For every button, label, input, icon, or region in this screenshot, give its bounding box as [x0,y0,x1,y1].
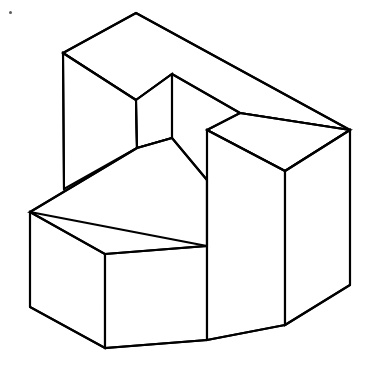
speck-artifact [9,11,12,14]
isometric-block-figure [0,0,369,373]
edge-left-corner-vertical [63,53,64,189]
edge-inner-vertical-left [136,100,137,148]
arm-front-face [105,246,207,348]
figure-canvas [0,0,369,373]
